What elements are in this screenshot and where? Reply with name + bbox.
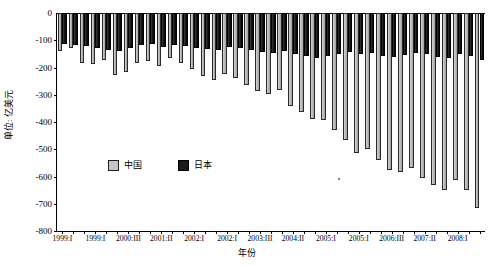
bar-japan <box>348 13 353 52</box>
bar-japan <box>238 13 243 48</box>
bar-japan <box>458 13 463 54</box>
y-tick-mark <box>54 204 57 205</box>
x-tick-label: 2002:I <box>184 234 204 243</box>
bar-japan <box>216 13 221 50</box>
x-tick-label: 2007:II <box>413 234 435 243</box>
x-tick-mark <box>337 231 338 234</box>
y-tick-mark <box>54 122 57 123</box>
bar-japan <box>282 13 287 51</box>
y-tick-mark <box>54 231 57 232</box>
x-tick-label: 2005:I <box>316 234 336 243</box>
y-tick-mark <box>54 149 57 150</box>
bar-japan <box>84 13 89 46</box>
bar-japan <box>161 13 166 47</box>
bar-japan <box>150 13 155 44</box>
y-tick-label: 0 <box>48 8 58 18</box>
bar-japan <box>392 13 397 57</box>
bar-japan <box>183 13 188 46</box>
bar-japan <box>447 13 452 58</box>
bar-japan <box>62 13 67 44</box>
bar-japan <box>249 13 254 50</box>
bar-japan <box>73 13 78 45</box>
bar-japan <box>304 13 309 56</box>
x-tick-mark <box>238 231 239 234</box>
bar-japan <box>359 13 364 54</box>
x-tick-label: 2003:III <box>248 234 273 243</box>
bar-japan <box>337 13 342 54</box>
bar-japan <box>370 13 375 53</box>
chart-container: 单位: 亿美元 0-100-200-300-400-500-600-700-80… <box>0 0 493 266</box>
x-tick-mark <box>370 231 371 234</box>
x-axis-label: 年份 <box>0 246 493 259</box>
x-tick-label: 1999:I <box>53 234 73 243</box>
bar-japan <box>227 13 232 47</box>
x-tick-label: 2004:II <box>282 234 304 243</box>
bar-japan <box>95 13 100 48</box>
legend-label-china: 中国 <box>124 161 142 170</box>
bar-japan <box>117 13 122 51</box>
x-tick-label: 2000:III <box>116 234 141 243</box>
bar-japan <box>293 13 298 54</box>
bar-japan <box>436 13 441 57</box>
bar-japan <box>414 13 419 53</box>
bar-japan <box>315 13 320 58</box>
chart-legend: 中国 日本 <box>108 160 212 171</box>
x-tick-mark <box>106 231 107 234</box>
y-tick-mark <box>54 95 57 96</box>
legend-entry-china: 中国 <box>108 160 142 171</box>
legend-entry-japan: 日本 <box>178 160 212 171</box>
stray-speck <box>338 178 340 180</box>
x-tick-mark <box>469 231 470 234</box>
y-tick-mark <box>54 68 57 69</box>
y-tick-mark <box>54 177 57 178</box>
bar-japan <box>326 13 331 56</box>
bar-japan <box>205 13 210 49</box>
legend-label-japan: 日本 <box>194 161 212 170</box>
x-tick-mark <box>73 231 74 234</box>
bar-japan <box>139 13 144 45</box>
x-tick-mark <box>205 231 206 234</box>
bar-japan <box>194 13 199 48</box>
bar-japan <box>106 13 111 50</box>
x-tick-mark <box>480 231 481 234</box>
bar-japan <box>128 13 133 48</box>
y-tick-mark <box>54 40 57 41</box>
bar-japan <box>271 13 276 53</box>
x-tick-label: 2008:I <box>448 234 468 243</box>
x-tick-label: 2006:III <box>379 234 404 243</box>
bar-japan <box>381 13 386 56</box>
bar-japan <box>469 13 474 56</box>
bar-japan <box>403 13 408 55</box>
plot-area: 0-100-200-300-400-500-600-700-800 1999:I… <box>56 13 485 232</box>
bar-japan <box>480 13 485 60</box>
bar-japan <box>260 13 265 52</box>
x-tick-label: 2005:I <box>349 234 369 243</box>
bar-japan <box>425 13 430 54</box>
x-tick-label: 2002:I <box>217 234 237 243</box>
x-tick-label: 1999:I <box>85 234 105 243</box>
y-axis-label: 单位: 亿美元 <box>2 60 15 170</box>
bar-japan <box>172 13 177 45</box>
legend-swatch-japan <box>178 160 189 171</box>
x-tick-label: 2001:II <box>150 234 172 243</box>
legend-swatch-china <box>108 160 119 171</box>
